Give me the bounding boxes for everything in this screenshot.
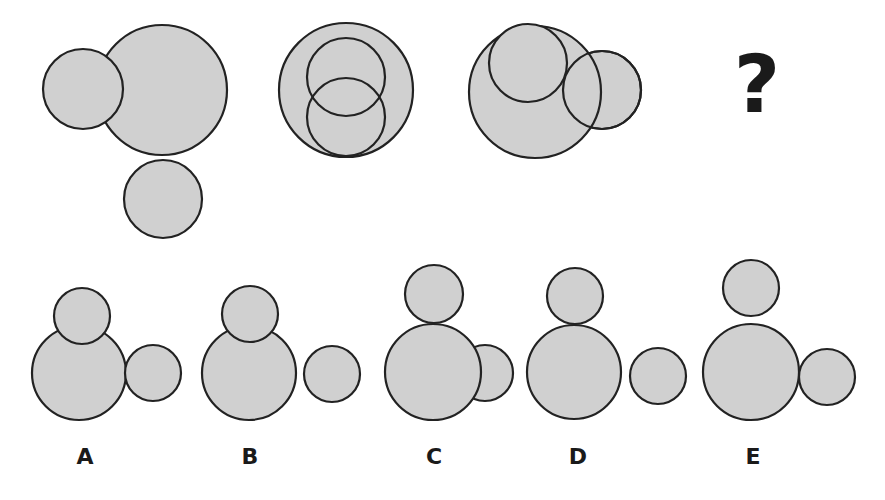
option-label-b[interactable]: B (242, 446, 259, 468)
option-e-figure[interactable] (703, 260, 855, 420)
circle-shape (547, 268, 603, 324)
circle-shape (222, 286, 278, 342)
circle-shape (54, 288, 110, 344)
puzzle-stage: ? A B C D E (0, 0, 885, 500)
option-label-e[interactable]: E (745, 446, 760, 468)
circle-shape (304, 346, 360, 402)
circle-shape (279, 23, 413, 157)
option-c-figure[interactable] (385, 265, 513, 420)
circle-shape (125, 345, 181, 401)
circle-shape (385, 324, 481, 420)
circle-shape (405, 265, 463, 323)
answer-options (32, 260, 855, 420)
circle-shape (527, 325, 621, 419)
sequence-panels (43, 23, 641, 238)
circle-shape (124, 160, 202, 238)
panel-3 (469, 24, 641, 158)
circle-shape (630, 348, 686, 404)
option-label-a[interactable]: A (76, 446, 93, 468)
option-a-figure[interactable] (32, 288, 181, 420)
circle-shape (799, 349, 855, 405)
circle-shape (703, 324, 799, 420)
question-mark: ? (734, 45, 780, 125)
option-d-figure[interactable] (527, 268, 686, 419)
panel-1 (43, 25, 227, 238)
panel-2 (279, 23, 413, 157)
circle-shape (723, 260, 779, 316)
option-label-d[interactable]: D (569, 446, 587, 468)
circle-shape (43, 49, 123, 129)
option-label-c[interactable]: C (426, 446, 442, 468)
option-b-figure[interactable] (202, 286, 360, 420)
circle-shape (489, 24, 567, 102)
